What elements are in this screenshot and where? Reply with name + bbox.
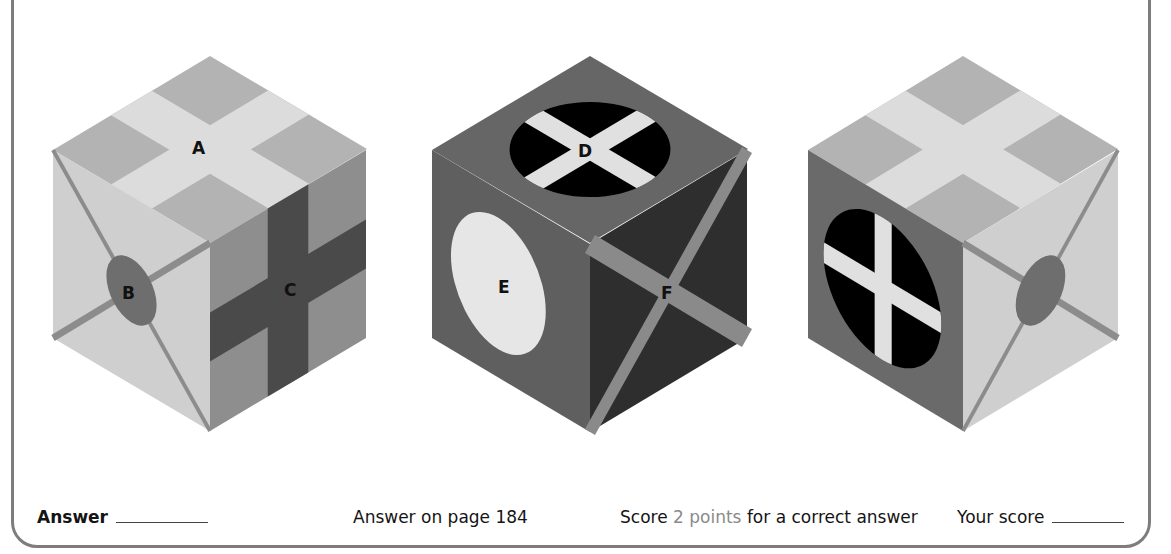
face-label-f: F bbox=[661, 283, 673, 303]
score-points: 2 points bbox=[673, 507, 741, 527]
score-suffix: for a correct answer bbox=[747, 507, 918, 527]
cube-1[interactable]: A B C bbox=[53, 56, 367, 431]
face-label-e: E bbox=[498, 277, 510, 297]
footer: Answer Answer on page 184 Score 2 points… bbox=[0, 507, 1171, 537]
answer-page-reference: Answer on page 184 bbox=[353, 507, 528, 527]
answer-label: Answer bbox=[37, 507, 108, 527]
your-score-label: Your score bbox=[957, 507, 1044, 527]
cube-2[interactable]: D E F bbox=[432, 56, 748, 432]
cube-3[interactable] bbox=[808, 56, 1118, 431]
answer-blank[interactable] bbox=[116, 508, 208, 523]
cube-figures: A B C D E F bbox=[0, 0, 1171, 460]
score-prefix: Score bbox=[620, 507, 668, 527]
face-label-a: A bbox=[192, 138, 206, 158]
your-score-blank[interactable] bbox=[1052, 508, 1124, 523]
your-score-field: Your score bbox=[957, 507, 1124, 527]
answer-field: Answer bbox=[37, 507, 208, 527]
score-instructions: Score 2 points for a correct answer bbox=[620, 507, 918, 527]
face-label-d: D bbox=[578, 141, 592, 161]
face-label-b: B bbox=[122, 283, 135, 303]
face-label-c: C bbox=[284, 280, 296, 300]
